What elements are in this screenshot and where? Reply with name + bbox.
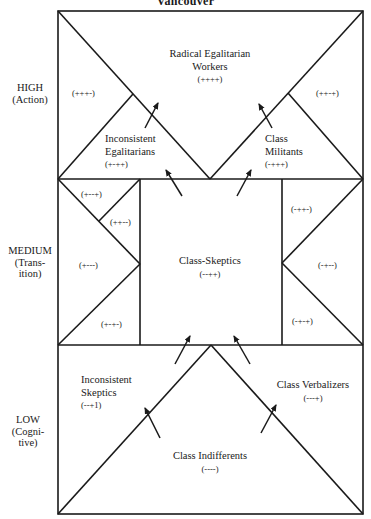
group-code: (-+++) (265, 158, 303, 171)
code-med-left-top: (+--+) (81, 189, 102, 199)
level-sub: (Cogni- (0, 426, 56, 438)
arrow-icon (259, 104, 272, 128)
code-med-right-top: (-++-) (291, 204, 312, 214)
group-radical-egalitarian-workers: Radical Egalitarian Workers (++++) (150, 48, 270, 86)
level-sub: ition) (2, 268, 58, 280)
arrow-icon (145, 408, 160, 438)
medium-left-small-diagonal (99, 179, 140, 221)
group-name: Egalitarians (105, 146, 156, 159)
group-name: Workers (150, 61, 270, 74)
code-high-left: (+++-) (72, 88, 95, 98)
group-name: Militants (265, 146, 303, 159)
group-name: Skeptics (81, 387, 132, 400)
code-med-left-upper-mid: (++--) (110, 217, 131, 227)
arrow-icon (145, 103, 158, 128)
group-inconsistent-skeptics: Inconsistent Skeptics (--+1) (81, 374, 132, 412)
group-name: Class Indifferents (160, 450, 260, 463)
group-name: Inconsistent (105, 133, 156, 146)
level-high-label: HIGH (Action) (2, 82, 58, 105)
level-name: LOW (0, 414, 56, 426)
medium-left-lower-diagonal (58, 264, 140, 345)
group-class-militants: Class Militants (-+++) (265, 133, 303, 171)
group-name: Class Verbalizers (265, 379, 361, 392)
group-code: (++++) (150, 73, 270, 86)
level-name: HIGH (2, 82, 58, 94)
level-low-label: LOW (Cogni- tive) (0, 414, 56, 449)
level-name: MEDIUM (2, 245, 58, 257)
code-med-left-mid: (+---) (79, 260, 98, 270)
group-code: (--++) (160, 268, 260, 281)
arrow-icon (234, 336, 250, 364)
group-name: Class (265, 133, 303, 146)
arrow-icon (175, 336, 190, 364)
low-left-diagonal (58, 345, 211, 514)
medium-right-upper-diagonal (282, 179, 363, 263)
group-code: (---+) (265, 392, 361, 405)
group-class-indifferents: Class Indifferents (----) (160, 450, 260, 475)
group-inconsistent-egalitarians: Inconsistent Egalitarians (+-++) (105, 133, 156, 171)
group-code: (+-++) (105, 158, 156, 171)
group-name: Class-Skeptics (160, 255, 260, 268)
level-sub: (Action) (2, 94, 58, 106)
code-high-right: (++-+) (316, 88, 339, 98)
level-medium-label: MEDIUM (Trans- ition) (2, 245, 58, 280)
group-code: (--+1) (81, 399, 132, 412)
group-name: Inconsistent (81, 374, 132, 387)
group-class-verbalizers: Class Verbalizers (---+) (265, 379, 361, 404)
arrow-icon (166, 170, 182, 196)
diagram-title: Vancouver (0, 0, 371, 9)
low-right-diagonal (211, 345, 363, 514)
code-med-right-bottom: (-+-+) (292, 316, 313, 326)
group-code: (----) (160, 463, 260, 476)
group-class-skeptics: Class-Skeptics (--++) (160, 255, 260, 280)
code-med-right-mid: (-+--) (318, 260, 337, 270)
medium-right-lower-diagonal (282, 263, 363, 345)
group-name: Radical Egalitarian (150, 48, 270, 61)
level-sub: tive) (0, 437, 56, 449)
level-sub: (Trans- (2, 257, 58, 269)
arrow-icon (237, 170, 251, 196)
code-med-left-bottom: (+-+-) (101, 319, 122, 329)
